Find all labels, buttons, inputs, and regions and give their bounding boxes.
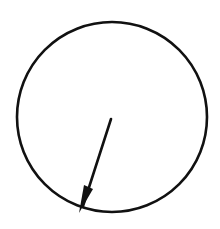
diagram-canvas — [0, 0, 220, 229]
circle-outline — [17, 22, 207, 212]
